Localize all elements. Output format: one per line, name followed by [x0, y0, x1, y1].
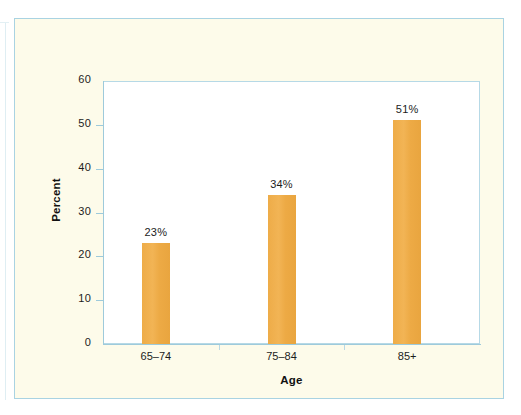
bar-value-label: 34% [252, 178, 312, 190]
x-axis-line [103, 344, 481, 345]
y-axis-tick-label: 60 [29, 73, 91, 85]
x-axis-title: Age [103, 374, 480, 386]
y-axis-tick [96, 169, 103, 170]
y-axis-tick [96, 213, 103, 214]
y-axis-tick-label: 0 [29, 336, 91, 348]
page-edge-line [5, 22, 6, 400]
bar [393, 120, 421, 344]
x-axis-tick [344, 345, 345, 350]
page-edge-line-top [0, 22, 9, 23]
y-axis-tick [96, 256, 103, 257]
x-axis-tick [219, 345, 220, 350]
x-axis-tick-label: 85+ [367, 350, 447, 362]
bar-value-label: 51% [377, 103, 437, 115]
figure-panel: 0102030405060 Percent 23%65–7434%75–8451… [14, 18, 504, 399]
x-axis-tick-label: 75–84 [242, 350, 322, 362]
y-axis-line [103, 81, 104, 345]
y-axis-tick-label: 10 [29, 292, 91, 304]
y-axis-title: Percent [50, 155, 62, 245]
bar [142, 243, 170, 344]
x-axis-tick-label: 65–74 [116, 350, 196, 362]
bar [268, 195, 296, 344]
y-axis-tick-label: 20 [29, 248, 91, 260]
y-axis-tick-label: 50 [29, 117, 91, 129]
bar-value-label: 23% [126, 226, 186, 238]
y-axis-tick [96, 300, 103, 301]
y-axis-tick [96, 125, 103, 126]
